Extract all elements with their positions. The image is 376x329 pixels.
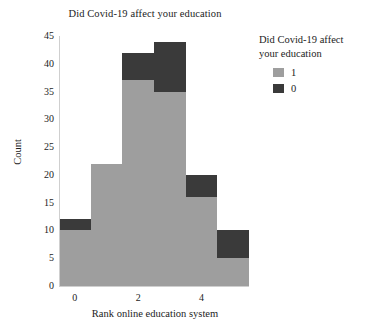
bar-segment-0 <box>186 175 218 197</box>
x-axis-label: Rank online education system <box>30 308 280 320</box>
y-tick-label: 15 <box>14 198 54 208</box>
y-axis-line <box>59 36 60 286</box>
y-tick-label: 45 <box>14 31 54 41</box>
plot-area <box>59 36 249 286</box>
bar-segment-0 <box>59 219 91 230</box>
bar-segment-1 <box>217 258 249 286</box>
chart-title: Did Covid-19 affect your education <box>0 7 290 20</box>
legend-swatch-icon <box>273 84 284 93</box>
bar-segment-0 <box>154 42 186 92</box>
bar-segment-1 <box>186 197 218 286</box>
bar-segment-0 <box>217 230 249 258</box>
legend-entry[interactable]: 1 <box>273 65 374 79</box>
legend-label: 1 <box>291 67 296 78</box>
legend-title-line-1: Did Covid-19 affect <box>259 33 374 47</box>
bar-stack <box>154 42 186 286</box>
bar-stack <box>59 219 91 286</box>
legend-entry[interactable]: 0 <box>273 81 374 95</box>
legend-label: 0 <box>291 83 296 94</box>
legend-entries: 10 <box>259 65 374 95</box>
bar-segment-1 <box>154 92 186 286</box>
bar-stack <box>122 53 154 286</box>
bar-stack <box>186 175 218 286</box>
y-tick-label: 40 <box>14 59 54 69</box>
chart-figure: Did Covid-19 affect your education 05101… <box>0 0 376 329</box>
y-tick-label: 5 <box>14 253 54 263</box>
legend-swatch-icon <box>273 68 284 77</box>
bar-segment-0 <box>122 53 154 81</box>
y-tick-label: 0 <box>14 281 54 291</box>
bar-segment-1 <box>59 230 91 286</box>
bar-stack <box>91 164 123 286</box>
y-axis-label: Count <box>12 122 24 182</box>
x-axis-line <box>59 286 249 287</box>
bar-stack <box>217 230 249 286</box>
bar-segment-1 <box>91 164 123 286</box>
y-tick-label: 10 <box>14 225 54 235</box>
bar-segment-1 <box>122 80 154 286</box>
legend-title-line-2: your education <box>259 47 374 61</box>
x-tick-label: 4 <box>187 292 217 303</box>
bars-layer <box>59 36 249 286</box>
legend-title: Did Covid-19 affect your education <box>259 33 374 60</box>
legend: Did Covid-19 affect your education 10 <box>259 33 374 97</box>
x-tick-label: 0 <box>60 292 90 303</box>
x-tick-label: 2 <box>123 292 153 303</box>
y-tick-label: 35 <box>14 87 54 97</box>
